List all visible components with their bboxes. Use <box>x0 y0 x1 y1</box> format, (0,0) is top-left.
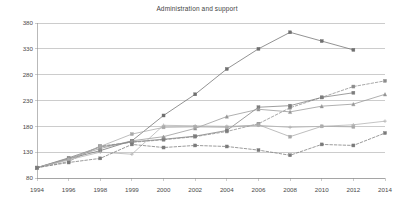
x-tick-label: 2002 <box>188 186 202 193</box>
data-point-marker <box>289 135 292 138</box>
data-point-marker <box>383 119 387 123</box>
x-axis-labels: 1994199619981999200020022004200620082010… <box>30 186 392 193</box>
x-tick-label: 2004 <box>220 186 234 193</box>
series-line <box>37 133 385 168</box>
data-point-marker <box>289 31 292 34</box>
data-point-marker <box>352 48 355 51</box>
data-point-marker <box>194 144 197 147</box>
data-point-marker <box>320 96 323 99</box>
series-7 <box>36 132 387 170</box>
gridlines <box>35 23 386 181</box>
data-point-marker <box>384 132 387 135</box>
data-point-marker <box>162 114 165 117</box>
plot-area: 80130180230280330380 1994199619981999200… <box>0 0 394 204</box>
series-1 <box>36 31 355 169</box>
data-point-marker <box>99 157 102 160</box>
data-point-marker <box>194 93 197 96</box>
x-tick-label: 2008 <box>283 186 297 193</box>
data-point-marker <box>257 149 260 152</box>
series-2 <box>36 79 387 169</box>
series-4 <box>35 93 386 170</box>
y-tick-label: 180 <box>23 123 34 130</box>
x-tick-label: 2006 <box>252 186 266 193</box>
x-tick-label: 2014 <box>378 186 392 193</box>
line-chart-svg: 80130180230280330380 1994199619981999200… <box>0 0 394 204</box>
data-point-marker <box>352 144 355 147</box>
data-point-marker <box>99 145 102 148</box>
y-tick-label: 380 <box>23 19 34 26</box>
y-tick-label: 130 <box>23 148 34 155</box>
chart-container: Administration and support 8013018023028… <box>0 0 394 204</box>
data-point-marker <box>320 143 323 146</box>
data-point-marker <box>289 154 292 157</box>
data-point-marker <box>225 145 228 148</box>
x-tick-label: 1996 <box>62 186 76 193</box>
x-tick-label: 1999 <box>125 186 139 193</box>
data-point-marker <box>36 166 39 169</box>
data-point-marker <box>162 146 165 149</box>
y-tick-label: 280 <box>23 71 34 78</box>
x-tick-label: 2010 <box>315 186 329 193</box>
y-tick-label: 80 <box>26 174 33 181</box>
data-series <box>35 31 387 170</box>
y-axis-labels: 80130180230280330380 <box>23 19 34 181</box>
series-line <box>37 94 385 167</box>
data-point-marker <box>352 85 355 88</box>
y-tick-label: 330 <box>23 45 34 52</box>
x-tick-label: 2012 <box>346 186 360 193</box>
x-tick-label: 1998 <box>93 186 107 193</box>
y-tick-label: 230 <box>23 97 34 104</box>
data-point-marker <box>257 47 260 50</box>
x-tick-label: 1994 <box>30 186 44 193</box>
data-point-marker <box>130 133 133 136</box>
data-point-marker <box>320 40 323 43</box>
data-point-marker <box>225 67 228 70</box>
data-point-marker <box>384 79 387 82</box>
data-point-marker <box>130 143 133 146</box>
data-point-marker <box>67 161 70 164</box>
data-point-marker <box>289 104 292 107</box>
data-point-marker <box>225 129 228 132</box>
series-line <box>37 121 385 168</box>
series-line <box>37 32 353 167</box>
x-tick-label: 2000 <box>157 186 171 193</box>
data-point-marker <box>194 135 197 138</box>
data-point-marker <box>352 91 355 94</box>
